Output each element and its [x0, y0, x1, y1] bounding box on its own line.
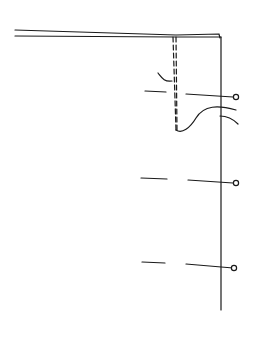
pin-marker-1 — [233, 94, 238, 99]
leader-1-left — [145, 91, 166, 92]
pin-marker-2 — [233, 180, 238, 185]
small-hook — [158, 73, 172, 81]
dashed-seam-inner — [176, 37, 177, 130]
leader-3-right — [186, 264, 233, 268]
top-edge-lower — [15, 36, 221, 37]
dashed-seam-outer — [173, 37, 176, 130]
flap-curve-upper — [176, 107, 236, 131]
pin-marker-3 — [231, 265, 236, 270]
leader-1-right — [186, 94, 233, 97]
leader-2-right — [188, 180, 233, 183]
leader-2-left — [141, 178, 167, 179]
flap-curve-lower — [220, 116, 238, 124]
line-diagram — [0, 0, 255, 340]
leader-3-left — [142, 262, 165, 263]
